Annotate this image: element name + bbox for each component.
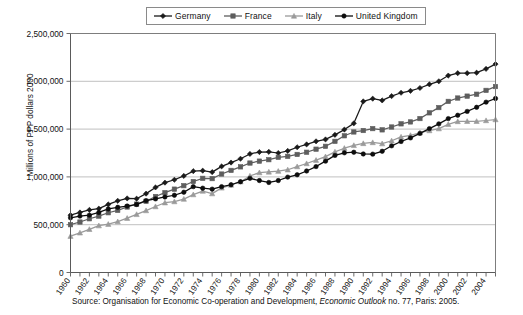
data-point-marker — [323, 159, 327, 163]
data-point-marker — [483, 66, 488, 71]
data-point-marker — [352, 150, 356, 154]
data-point-marker — [295, 173, 299, 177]
series-italy — [68, 117, 498, 238]
data-point-marker — [474, 105, 478, 109]
data-point-marker — [380, 128, 384, 132]
data-point-marker — [389, 94, 394, 99]
x-axis-tick-labels: 1960196219641966196819701972197419761978… — [54, 276, 488, 296]
data-point-marker — [465, 94, 469, 98]
data-point-marker — [97, 210, 101, 214]
data-point-marker — [125, 204, 129, 208]
data-point-marker — [286, 175, 290, 179]
data-point-marker — [125, 196, 130, 201]
data-point-marker — [342, 151, 346, 155]
data-point-marker — [134, 202, 138, 206]
data-point-marker — [182, 190, 186, 194]
data-point-marker — [352, 130, 356, 134]
data-point-marker — [446, 99, 450, 103]
data-point-marker — [361, 128, 365, 132]
data-point-marker — [181, 173, 186, 178]
y-tick-label: 0 — [59, 268, 64, 278]
data-point-marker — [247, 151, 252, 156]
data-point-marker — [418, 131, 422, 135]
data-point-marker — [380, 149, 384, 153]
data-point-marker — [248, 176, 252, 180]
data-point-marker — [201, 176, 205, 180]
data-point-marker — [456, 113, 460, 117]
data-point-marker — [248, 161, 252, 165]
data-point-marker — [210, 176, 214, 180]
data-point-marker — [201, 186, 205, 190]
source-suffix: no. 77, Paris: 2005. — [386, 297, 459, 306]
y-tick-label: 500,000 — [34, 220, 64, 230]
data-point-marker — [153, 197, 157, 201]
data-point-marker — [323, 137, 328, 142]
chart-figure: GermanyFranceItalyUnited Kingdom Million… — [0, 0, 523, 315]
data-point-marker — [313, 139, 318, 144]
data-point-marker — [398, 90, 403, 95]
data-point-marker — [229, 183, 233, 187]
data-point-marker — [380, 98, 385, 103]
x-tick-label: 1964 — [92, 276, 110, 296]
data-point-marker — [87, 213, 91, 217]
x-tick-label: 1982 — [262, 276, 280, 296]
data-point-marker — [163, 195, 167, 199]
x-tick-label: 1998 — [413, 276, 431, 296]
data-point-marker — [417, 85, 422, 90]
data-point-marker — [191, 184, 195, 188]
data-point-marker — [427, 126, 431, 130]
data-point-marker — [333, 153, 337, 157]
data-point-marker — [115, 198, 120, 203]
data-point-marker — [295, 145, 300, 150]
source-prefix: Source: Organisation for Economic Co-ope… — [72, 297, 320, 306]
data-point-marker — [455, 71, 460, 76]
data-point-marker — [238, 156, 243, 161]
x-tick-label: 1966 — [111, 276, 129, 296]
x-tick-label: 1980 — [243, 276, 261, 296]
data-point-marker — [465, 109, 469, 113]
data-point-marker — [191, 169, 196, 174]
data-point-marker — [219, 172, 223, 176]
data-point-marker — [418, 116, 422, 120]
data-point-marker — [162, 180, 167, 185]
data-point-marker — [304, 150, 308, 154]
data-point-marker — [163, 190, 167, 194]
data-point-marker — [304, 142, 309, 147]
data-point-marker — [371, 152, 375, 156]
x-tick-label: 1986 — [300, 276, 318, 296]
data-point-marker — [295, 152, 299, 156]
x-tick-label: 1994 — [375, 276, 393, 296]
x-tick-label: 1974 — [187, 276, 205, 296]
data-point-marker — [238, 165, 242, 169]
data-point-marker — [474, 92, 478, 96]
data-point-marker — [238, 179, 242, 183]
data-point-marker — [408, 88, 413, 93]
x-axis-ticks — [71, 273, 496, 277]
data-point-marker — [257, 178, 261, 182]
data-point-marker — [78, 220, 82, 224]
data-point-marker — [427, 111, 431, 115]
data-point-marker — [257, 159, 261, 163]
data-point-marker — [333, 139, 337, 143]
data-point-marker — [276, 155, 280, 159]
data-point-marker — [172, 193, 176, 197]
data-point-marker — [78, 214, 82, 218]
axis-lines — [71, 34, 496, 273]
y-tick-label: 1,000,000 — [27, 172, 64, 182]
x-tick-label: 2000 — [432, 276, 450, 296]
data-point-marker — [437, 122, 441, 126]
x-tick-label: 1978 — [224, 276, 242, 296]
data-point-marker — [342, 134, 346, 138]
x-tick-label: 2004 — [470, 276, 488, 296]
x-tick-label: 2002 — [451, 276, 469, 296]
data-point-marker — [285, 148, 290, 153]
x-tick-label: 1992 — [357, 276, 375, 296]
y-tick-label: 2,500,000 — [27, 29, 64, 39]
data-point-marker — [210, 187, 214, 191]
data-point-marker — [314, 164, 318, 168]
data-point-marker — [229, 168, 233, 172]
data-point-marker — [323, 144, 327, 148]
data-point-marker — [267, 180, 271, 184]
x-tick-label: 1968 — [130, 276, 148, 296]
data-point-marker — [116, 205, 120, 209]
